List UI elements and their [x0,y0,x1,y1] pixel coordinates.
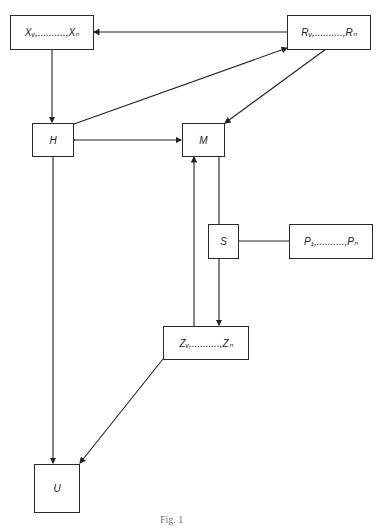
node-x: Xᵥ,..........,Xₙ [10,15,94,50]
edge-r-to-m [225,49,326,123]
node-s: S [208,224,239,259]
node-p-label: P₁,..........,Pₙ [304,236,358,247]
node-h: H [32,123,74,157]
node-u: U [34,464,80,513]
node-x-label: Xᵥ,..........,Xₙ [25,27,79,38]
node-p: P₁,..........,Pₙ [289,224,373,259]
diagram-edges [0,0,387,528]
node-m: M [182,123,225,157]
node-h-label: H [49,135,56,146]
edge-h-to-r [74,48,287,124]
edge-z-to-u [80,359,163,463]
node-z-label: Zᵥ,..........,Zₙ [179,338,232,349]
node-z: Zᵥ,..........,Zₙ [163,326,249,360]
figure-caption: Fig. 1 [160,514,183,525]
node-r: Rᵥ,..........,Rₙ [287,15,371,50]
node-s-label: S [220,236,227,247]
node-m-label: M [199,135,207,146]
node-r-label: Rᵥ,..........,Rₙ [301,27,356,38]
node-u-label: U [53,483,60,494]
